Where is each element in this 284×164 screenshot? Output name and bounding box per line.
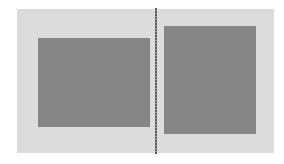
right-panel	[157, 9, 274, 153]
left-gray-block	[38, 38, 150, 127]
left-panel	[17, 9, 155, 153]
right-gray-block	[164, 26, 256, 134]
